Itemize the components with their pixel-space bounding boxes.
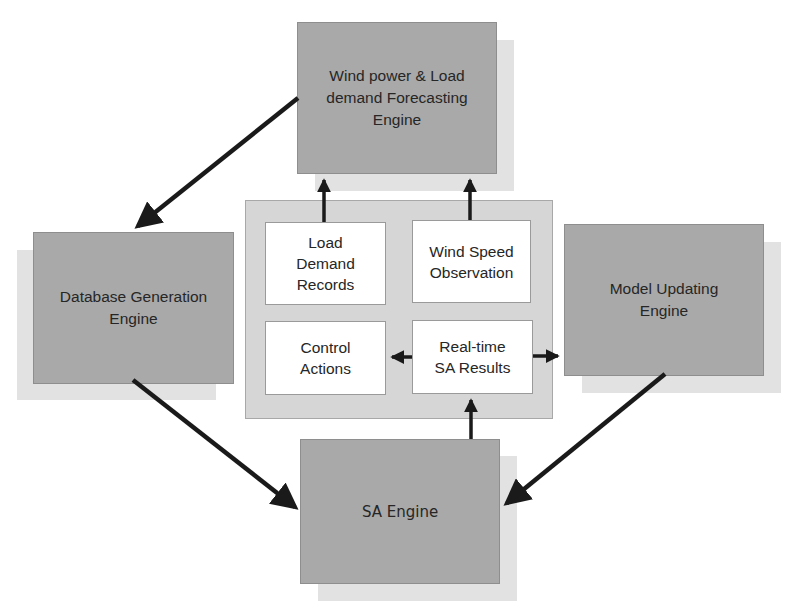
load-demand-label: Load Demand Records: [296, 232, 355, 295]
control-actions-label: Control Actions: [300, 337, 351, 379]
control-actions-box: Control Actions: [265, 321, 386, 395]
wind-speed-label: Wind Speed Observation: [429, 241, 513, 283]
wind-speed-observation-box: Wind Speed Observation: [412, 220, 531, 303]
model-updating-engine: Model Updating Engine: [564, 224, 764, 376]
model-engine-label: Model Updating Engine: [610, 278, 719, 322]
sa-engine-label: SA Engine: [362, 501, 438, 523]
realtime-sa-results-box: Real-time SA Results: [412, 320, 533, 394]
forecasting-engine-label: Wind power & Load demand Forecasting Eng…: [326, 65, 467, 131]
load-demand-records-box: Load Demand Records: [265, 222, 386, 305]
database-engine-label: Database Generation Engine: [60, 286, 207, 330]
realtime-sa-label: Real-time SA Results: [435, 336, 511, 378]
database-generation-engine: Database Generation Engine: [33, 232, 234, 384]
forecasting-engine: Wind power & Load demand Forecasting Eng…: [297, 22, 497, 174]
sa-engine: SA Engine: [300, 439, 500, 584]
